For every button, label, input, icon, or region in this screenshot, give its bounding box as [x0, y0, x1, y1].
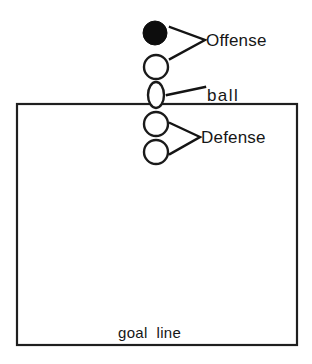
offense-label: Offense — [206, 31, 267, 50]
formation-diagram: Offense ball Defense goal line — [0, 0, 312, 364]
ball-label: ball — [207, 86, 239, 105]
defense-player-upper — [144, 112, 168, 136]
goal-line-label: goal line — [118, 324, 181, 341]
defense-player-lower — [144, 140, 168, 164]
defense-label: Defense — [201, 128, 266, 147]
ball-marker — [148, 82, 164, 108]
diagram-canvas: Offense ball Defense goal line — [0, 0, 312, 364]
offense-player-filled — [143, 21, 167, 45]
offense-player-open — [144, 55, 168, 79]
